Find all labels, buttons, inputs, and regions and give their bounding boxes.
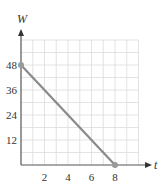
x-tick-label: 4: [65, 171, 71, 183]
x-axis-label: t: [154, 158, 158, 172]
x-axis-arrow-icon: [145, 162, 152, 168]
data-point: [112, 162, 118, 168]
x-tick-label: 2: [42, 171, 48, 183]
y-tick-label: 24: [6, 109, 18, 121]
y-axis-label: W: [17, 12, 28, 26]
x-tick-label: 8: [112, 171, 118, 183]
x-tick-label: 6: [89, 171, 95, 183]
y-tick-label: 36: [6, 84, 18, 96]
data-point: [18, 62, 24, 68]
axes: [18, 29, 152, 168]
grid: [21, 40, 139, 165]
line-chart: t W 2468 12243648: [0, 0, 161, 189]
y-tick-label: 12: [6, 134, 17, 146]
y-tick-labels: 12243648: [6, 59, 18, 146]
y-tick-label: 48: [6, 59, 18, 71]
y-axis-arrow-icon: [18, 29, 24, 36]
x-tick-labels: 2468: [42, 171, 119, 183]
